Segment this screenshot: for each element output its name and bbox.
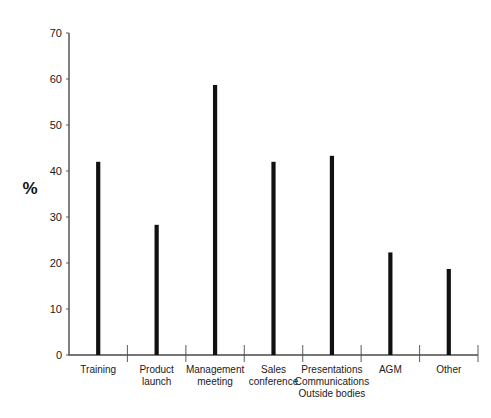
x-axis-category-labels: TrainingProductlaunchManagementmeetingSa…: [80, 364, 462, 399]
bar-chart: 010203040506070 TrainingProductlaunchMan…: [0, 0, 491, 418]
x-axis-category-label: Productlaunch: [139, 364, 174, 387]
bar: [330, 156, 334, 355]
y-axis-tick-label: 30: [50, 211, 62, 223]
y-axis-tick-label: 40: [50, 165, 62, 177]
x-axis-category-label: Salesconference: [249, 364, 299, 387]
y-axis-tick-label: 50: [50, 119, 62, 131]
y-axis-tick-label: 10: [50, 303, 62, 315]
bar: [388, 252, 392, 355]
x-axis-category-label: Training: [80, 364, 116, 375]
y-axis-title: %: [22, 179, 37, 198]
y-axis-tick-label: 20: [50, 257, 62, 269]
bar: [96, 162, 100, 355]
bar: [213, 85, 217, 355]
x-axis-category-label: AGM: [379, 364, 402, 375]
y-axis-tick-label: 60: [50, 73, 62, 85]
y-axis-tick-label: 70: [50, 27, 62, 39]
x-axis-tick-marks: [127, 345, 478, 362]
x-axis-category-label: Managementmeeting: [186, 364, 245, 387]
bar: [271, 162, 275, 355]
x-axis-category-label: PresentationsCommunicationsOutside bodie…: [295, 364, 369, 399]
y-axis-tick-label: 0: [56, 349, 62, 361]
y-axis-tick-labels: 010203040506070: [50, 27, 62, 361]
chart-canvas: 010203040506070 TrainingProductlaunchMan…: [0, 0, 491, 418]
bar: [447, 269, 451, 355]
bar-series: [96, 85, 451, 355]
x-axis-category-label: Other: [436, 364, 462, 375]
bar: [155, 225, 159, 355]
